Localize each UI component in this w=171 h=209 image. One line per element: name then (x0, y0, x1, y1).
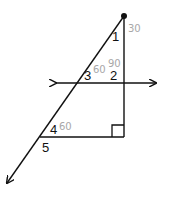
angle-label-2: 2 (110, 68, 117, 83)
handwritten-60-angle3: 60 (93, 64, 106, 75)
apex-point (121, 13, 127, 19)
angle-label-5: 5 (42, 140, 49, 155)
angle-label-3: 3 (84, 68, 91, 83)
handwritten-60-angle4: 60 (59, 121, 72, 132)
slanted-ray (7, 16, 124, 183)
right-angle-mark (112, 125, 124, 137)
diagram-svg: 1 3 2 4 5 30 60 90 60 (0, 0, 171, 209)
angle-label-4: 4 (50, 122, 57, 137)
handwritten-30: 30 (128, 23, 141, 34)
angle-label-1: 1 (112, 29, 119, 44)
geometry-diagram: 1 3 2 4 5 30 60 90 60 (0, 0, 171, 209)
handwritten-90: 90 (108, 58, 121, 69)
